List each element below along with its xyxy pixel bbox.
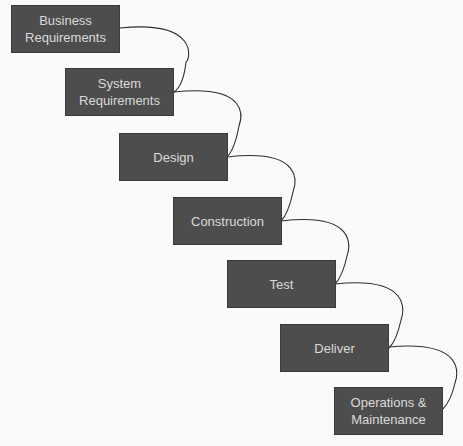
stage-label: Construction (191, 213, 264, 230)
stage-label-line2: Maintenance (351, 411, 427, 428)
stage-test: Test (227, 260, 336, 308)
stage-operations-maintenance: Operations & Maintenance (334, 387, 443, 435)
stage-design: Design (119, 133, 228, 181)
stage-deliver: Deliver (280, 324, 389, 372)
stage-label: Test (270, 276, 294, 293)
stage-label-line2: Requirements (79, 92, 160, 109)
stage-construction: Construction (173, 197, 282, 245)
stage-label-line1: System (79, 75, 160, 92)
stage-business-requirements: Business Requirements (11, 5, 120, 53)
stage-label-line2: Requirements (25, 29, 106, 46)
stage-system-requirements: System Requirements (65, 68, 174, 116)
stage-label: Deliver (314, 340, 354, 357)
stage-label: Design (153, 149, 193, 166)
stage-label-line1: Operations & (351, 394, 427, 411)
stage-label-line1: Business (25, 12, 106, 29)
